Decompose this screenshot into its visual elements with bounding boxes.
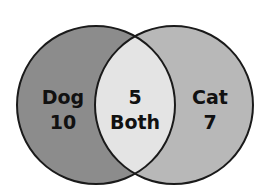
venn-diagram: Dog 10 5 Both Cat 7 xyxy=(0,0,261,196)
overlap-value: 5 xyxy=(128,86,141,108)
overlap-label: Both xyxy=(110,111,160,133)
dog-value: 10 xyxy=(50,111,76,133)
dog-label: Dog xyxy=(42,86,84,108)
cat-label: Cat xyxy=(192,86,228,108)
cat-value: 7 xyxy=(203,111,216,133)
